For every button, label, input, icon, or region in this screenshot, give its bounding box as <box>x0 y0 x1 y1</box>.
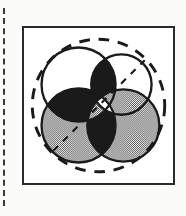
left-margin-dashed-rule <box>3 8 5 206</box>
venn-diagram <box>24 28 173 183</box>
figure-frame <box>22 26 175 185</box>
figure-page <box>0 0 186 216</box>
